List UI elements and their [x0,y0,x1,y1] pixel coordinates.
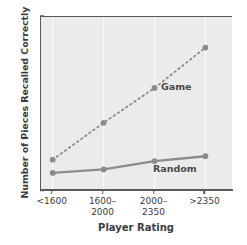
x-axis-title: Player Rating [40,222,232,233]
data-point-game-0 [50,157,56,163]
x-tick-label-2-line2: 2350 [119,207,189,218]
data-point-game-3 [203,45,209,51]
x-tick-mark-0 [51,190,53,194]
chart-figure: Number of Pieces Recalled Correctly 25 2… [0,0,247,245]
data-point-game-2 [152,85,158,91]
x-tick-mark-1 [102,190,104,194]
data-point-game-1 [101,120,107,126]
y-axis-title: Number of Pieces Recalled Correctly [19,9,30,199]
data-point-random-3 [203,153,209,159]
data-point-random-0 [50,170,56,176]
series-annotation-random: Random [153,163,197,174]
x-tick-mark-3 [204,190,206,194]
x-tick-label-3-line1: >2350 [169,196,239,207]
plot-area: Game Random [40,16,232,190]
data-point-random-1 [101,167,107,173]
plot-svg [41,17,233,191]
x-tick-mark-2 [153,190,155,194]
x-tick-label-3: >2350 [169,196,239,207]
series-game [50,45,209,163]
series-annotation-game: Game [161,81,192,92]
